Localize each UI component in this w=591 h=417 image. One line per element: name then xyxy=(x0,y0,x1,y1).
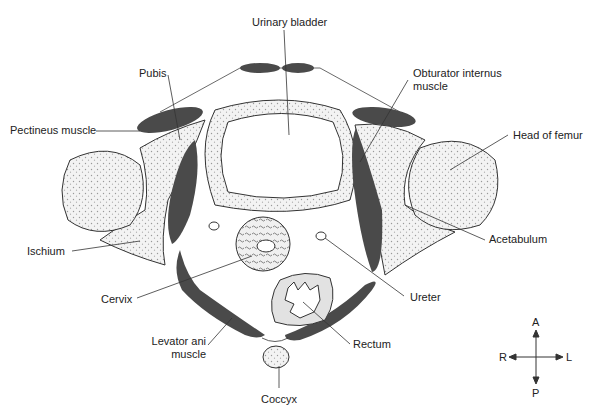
coccyx xyxy=(263,346,289,368)
label-obturator-internus-line2: muscle xyxy=(413,80,448,93)
femur-head-right xyxy=(409,141,498,229)
label-urinary-bladder: Urinary bladder xyxy=(252,16,327,29)
ureter-left xyxy=(209,222,219,230)
label-levator-ani-line2: muscle xyxy=(150,348,206,361)
ureter-right xyxy=(316,232,326,240)
compass-right: R xyxy=(499,351,507,364)
label-obturator-internus-line1: Obturator internus xyxy=(413,67,502,80)
compass-left: L xyxy=(566,351,572,364)
label-acetabulum: Acetabulum xyxy=(489,233,547,246)
rectus-muscle-right xyxy=(282,63,314,73)
label-levator-ani-line1: Levator ani xyxy=(150,335,206,348)
compass-anterior: A xyxy=(532,316,539,329)
rectus-muscle-left xyxy=(240,63,280,73)
label-ureter: Ureter xyxy=(410,291,441,304)
label-rectum: Rectum xyxy=(353,338,391,351)
compass-posterior: P xyxy=(532,387,539,400)
label-head-of-femur: Head of femur xyxy=(513,129,583,142)
label-pubis: Pubis xyxy=(139,67,167,80)
orientation-compass xyxy=(509,330,563,384)
femur-head-left xyxy=(62,151,143,231)
label-pectineus-muscle: Pectineus muscle xyxy=(10,124,96,137)
label-cervix: Cervix xyxy=(101,293,132,306)
label-coccyx: Coccyx xyxy=(261,393,297,406)
label-ischium: Ischium xyxy=(27,245,65,258)
